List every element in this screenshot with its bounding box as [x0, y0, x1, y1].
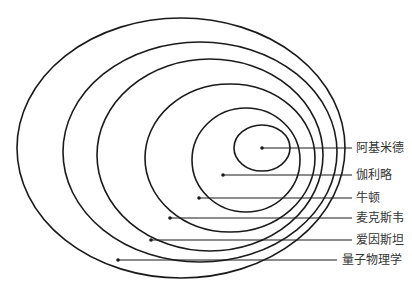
leader-dot-1: [221, 173, 225, 177]
nested-ellipse-diagram: 阿基米德伽利略牛顿麦克斯韦爱因斯坦量子物理学: [0, 0, 412, 294]
diagram-shapes: [0, 0, 412, 294]
level-label: 阿基米德: [356, 141, 404, 155]
leader-dot-2: [197, 196, 201, 200]
leader-dot-0: [260, 146, 264, 150]
leader-dot-3: [168, 216, 172, 220]
leader-dot-5: [116, 258, 120, 262]
level-label: 牛顿: [356, 191, 380, 205]
ellipse-level-4: [63, 42, 337, 262]
level-label: 爱因斯坦: [356, 233, 404, 247]
level-label: 量子物理学: [342, 253, 402, 267]
level-label: 麦克斯韦: [356, 211, 404, 225]
leader-dot-4: [149, 238, 153, 242]
level-label: 伽利略: [356, 168, 392, 182]
ellipse-level-1: [192, 108, 300, 212]
